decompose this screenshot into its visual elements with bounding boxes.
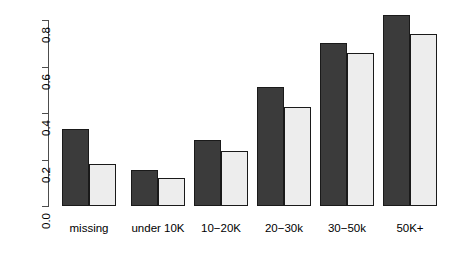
bar-light-3: [284, 107, 311, 206]
bar-light-4: [347, 53, 374, 206]
bar-dark-0: [62, 129, 89, 206]
bar-dark-2: [194, 140, 221, 206]
x-axis-label-1: under 10K: [131, 222, 184, 234]
bar-light-0: [89, 164, 116, 206]
bar-dark-4: [320, 43, 347, 206]
x-axis-label-3: 20−30k: [265, 222, 303, 234]
bar-light-5: [410, 34, 437, 206]
plot-area: missingunder 10K10−20K20−30k30−50k50K+: [0, 0, 450, 257]
bar-chart: 0.00.20.40.60.8 missingunder 10K10−20K20…: [0, 0, 450, 257]
bar-dark-1: [131, 170, 158, 206]
bar-dark-5: [383, 15, 410, 206]
x-axis-label-2: 10−20K: [201, 222, 241, 234]
x-axis-label-4: 30−50k: [328, 222, 366, 234]
bar-light-2: [221, 151, 248, 206]
bar-light-1: [158, 178, 185, 206]
bar-dark-3: [257, 87, 284, 206]
x-axis-label-0: missing: [70, 222, 109, 234]
x-axis-label-5: 50K+: [396, 222, 423, 234]
